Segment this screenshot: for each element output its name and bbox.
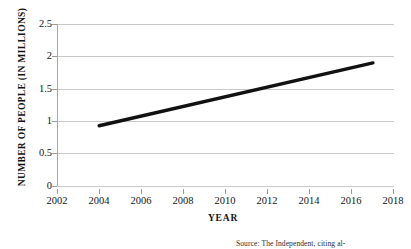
x-tick-mark: [309, 189, 310, 194]
plot-area: [57, 24, 394, 186]
y-tick-label: 0.5: [8, 148, 52, 159]
x-tick-label: 2002: [37, 196, 77, 207]
x-tick-mark: [393, 189, 394, 194]
y-tick-label: 2.5: [8, 19, 52, 30]
x-axis-title: YEAR: [208, 213, 238, 223]
y-axis-line: [57, 24, 58, 186]
x-tick-mark: [99, 189, 100, 194]
y-tick-label: 2: [8, 51, 52, 62]
x-tick-label: 2006: [121, 196, 161, 207]
x-axis-title-wrap: YEAR: [0, 213, 411, 223]
y-axis-ticks: 2.5 2 1.5 1 0.5 0: [0, 24, 52, 186]
source-note: Source: The Independent, citing al-: [236, 239, 345, 248]
chart-figure: NUMBER OF PEOPLE (IN MILLIONS) 2.5 2 1.5…: [0, 0, 411, 249]
x-tick-mark: [141, 189, 142, 194]
x-tick-label: 2008: [163, 196, 203, 207]
gridline: [57, 24, 394, 25]
gridline: [57, 56, 394, 57]
x-tick-label: 2016: [331, 196, 371, 207]
x-tick-label: 2014: [289, 196, 329, 207]
x-tick-mark: [351, 189, 352, 194]
x-tick-mark: [183, 189, 184, 194]
y-tick-label: 1.5: [8, 84, 52, 95]
gridline: [57, 153, 394, 154]
x-tick-mark: [225, 189, 226, 194]
x-tick-mark: [267, 189, 268, 194]
gridline: [57, 89, 394, 90]
gridline: [57, 121, 394, 122]
x-tick-label: 2010: [205, 196, 245, 207]
y-tick-label: 1: [8, 116, 52, 127]
x-axis-ticks: 2002 2004 2006 2008 2010 2012 2014 2016 …: [0, 186, 411, 210]
x-tick-label: 2018: [373, 196, 411, 207]
x-tick-mark: [57, 189, 58, 194]
x-tick-label: 2012: [247, 196, 287, 207]
x-tick-label: 2004: [79, 196, 119, 207]
